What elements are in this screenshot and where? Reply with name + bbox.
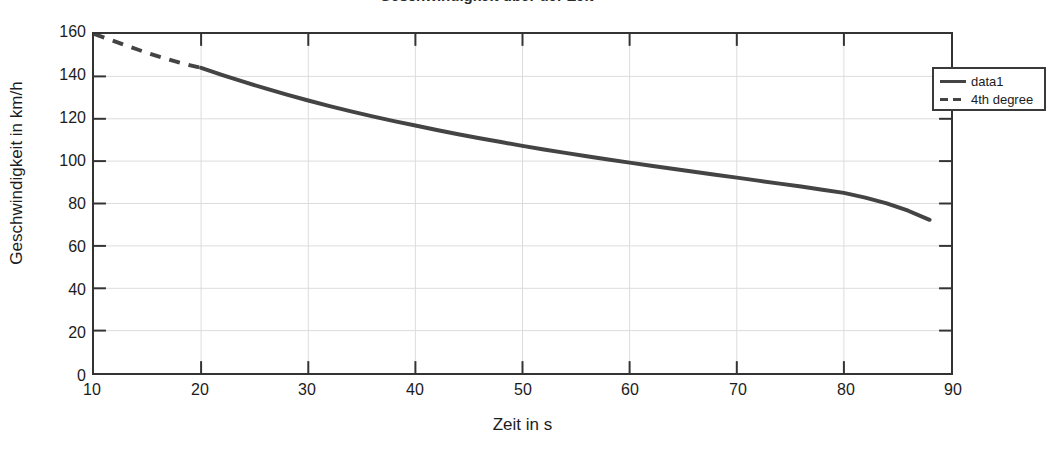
solid-line-swatch-icon	[938, 75, 968, 87]
x-tick-50: 50	[498, 382, 548, 398]
dashed-line-swatch-icon	[938, 93, 968, 105]
y-tick-40: 40	[46, 282, 86, 298]
x-tick-20: 20	[175, 382, 225, 398]
y-tick-100: 100	[46, 153, 86, 169]
series-data1-solid	[201, 68, 929, 220]
y-tick-20: 20	[46, 325, 86, 341]
x-tick-30: 30	[282, 382, 332, 398]
chart-title-text: Geschwindigkeit uber der Zeit	[0, 0, 973, 4]
series-4th-degree-dashed	[94, 34, 201, 68]
y-tick-120: 120	[46, 110, 86, 126]
legend-entry-4th-degree[interactable]: 4th degree	[938, 90, 1040, 108]
x-tick-90: 90	[928, 382, 978, 398]
x-axis-tick-labels: 10 20 30 40 50 60 70 80 90	[0, 382, 973, 406]
x-tick-70: 70	[713, 382, 763, 398]
x-tick-60: 60	[605, 382, 655, 398]
y-tick-80: 80	[46, 196, 86, 212]
legend-entry-data1[interactable]: data1	[938, 72, 1040, 90]
legend-label-4th-degree: 4th degree	[968, 92, 1033, 107]
y-tick-160: 160	[46, 24, 86, 40]
plot-area: data1 4th degree	[92, 32, 953, 375]
x-axis-title: Zeit in s	[92, 415, 953, 435]
y-tick-140: 140	[46, 67, 86, 83]
legend-box[interactable]: data1 4th degree	[932, 67, 1046, 111]
x-tick-40: 40	[390, 382, 440, 398]
x-tick-10: 10	[67, 382, 117, 398]
data-curves	[94, 34, 951, 373]
legend-label-data1: data1	[968, 74, 1004, 89]
x-tick-80: 80	[821, 382, 871, 398]
chart-title-cropped: Geschwindigkeit uber der Zeit	[0, 0, 973, 9]
y-tick-60: 60	[46, 239, 86, 255]
y-axis-title: Geschwindigkeit in km/h	[7, 13, 27, 333]
